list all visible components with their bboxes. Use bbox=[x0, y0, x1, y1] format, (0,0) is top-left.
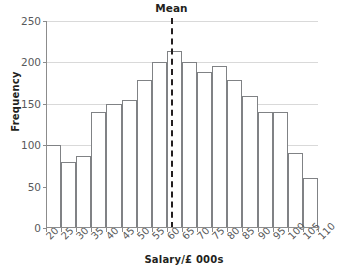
mean-line bbox=[171, 18, 173, 228]
histogram-bar bbox=[152, 62, 167, 228]
x-tick-label: 110 bbox=[316, 220, 337, 241]
plot-area: 050100150200250 202530354045505560657075… bbox=[46, 21, 318, 228]
histogram-bar bbox=[122, 100, 137, 228]
bar-series bbox=[46, 21, 318, 228]
y-tick-label: 200 bbox=[21, 56, 41, 68]
histogram-bar bbox=[61, 162, 76, 228]
histogram-bar bbox=[242, 96, 257, 228]
histogram-bar bbox=[137, 80, 152, 228]
y-tick-label: 100 bbox=[21, 139, 41, 151]
histogram-bar bbox=[273, 112, 288, 228]
histogram-bar bbox=[76, 156, 91, 228]
x-axis-title: Salary/£ 000s bbox=[44, 254, 324, 265]
mean-label: Mean bbox=[155, 2, 187, 14]
y-tick-label: 50 bbox=[28, 181, 41, 193]
y-tick-label: 0 bbox=[34, 222, 41, 234]
y-tick-label: 150 bbox=[21, 98, 41, 110]
histogram-bar bbox=[258, 112, 273, 228]
x-axis-line bbox=[46, 227, 318, 228]
y-axis-line bbox=[46, 21, 47, 228]
histogram-bar bbox=[91, 112, 106, 228]
histogram-bar bbox=[182, 62, 197, 228]
y-axis-title: Frequency bbox=[10, 66, 21, 138]
histogram-bar bbox=[212, 66, 227, 228]
histogram-bar bbox=[46, 145, 61, 228]
histogram-bar bbox=[197, 72, 212, 228]
histogram-bar bbox=[303, 178, 318, 228]
y-tick-label: 250 bbox=[21, 15, 41, 27]
histogram-bar bbox=[227, 80, 242, 228]
histogram-bar bbox=[288, 153, 303, 228]
histogram-bar bbox=[167, 51, 182, 228]
histogram-bar bbox=[106, 104, 121, 228]
